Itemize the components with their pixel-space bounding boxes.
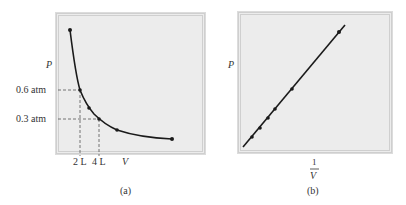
panel-b-x-axis-denominator: V — [310, 170, 316, 181]
y-tick-0-6-atm: 0.6 atm — [16, 84, 46, 95]
panel-a-y-axis-label: P — [46, 59, 52, 70]
panel-b-y-axis-label: P — [228, 59, 234, 70]
panel-a-x-axis-label: V — [122, 156, 128, 167]
panel-b-x-axis-numerator: 1 — [312, 157, 317, 167]
plot-curves — [0, 0, 406, 205]
dashed-guides — [58, 90, 99, 156]
curve-data-points — [68, 28, 174, 141]
panel-b-caption: (b) — [307, 185, 319, 196]
x-tick-4-l: 4 L — [92, 156, 106, 167]
panel-a-caption: (a) — [120, 185, 131, 196]
pressure-inverse-volume-line — [243, 25, 345, 147]
pressure-volume-curve — [70, 30, 172, 139]
y-tick-0-3-atm: 0.3 atm — [16, 113, 46, 124]
x-tick-2-l: 2 L — [73, 156, 87, 167]
